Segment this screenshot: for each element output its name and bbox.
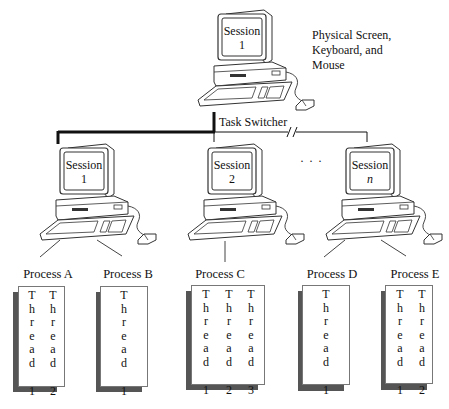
thread-letter: e [47,330,59,344]
process-c-title: Process C [188,267,252,282]
thread-letter: T [394,288,406,302]
thread-letter: e [320,329,332,343]
thread-letter: T [200,288,212,302]
thread-1: Thread 1 [320,288,332,397]
thread-letter: T [47,289,59,303]
thread-letter: h [26,303,38,317]
screen-number: 1 [62,172,106,186]
thread-number: 2 [47,385,59,399]
thread-letter: d [245,356,257,370]
process-e-title: Process E [383,267,447,282]
process-b: Thread 1 [96,286,148,392]
thread-letter: T [320,288,332,302]
thread-letter: a [200,342,212,356]
thread-letter: e [394,329,406,343]
process-card: Thread 1 Thread 2 Thread 3 [191,285,265,385]
thread-letter: h [118,303,130,317]
thread-letter: e [223,329,235,343]
thread-letter: a [26,343,38,357]
thread-letter: d [416,356,428,370]
thread-letter: T [26,289,38,303]
thread-letter: r [416,315,428,329]
physical-computer: Session 1 [196,8,316,108]
thread-letter: e [200,329,212,343]
thread-number: 3 [245,384,257,398]
thread-letter: r [26,316,38,330]
thread-letter: e [26,330,38,344]
thread-letter: d [223,356,235,370]
thread-1: Thread 1 [118,289,130,398]
thread-letter: d [200,356,212,370]
thread-number: 1 [320,384,332,398]
screen-text: Session [214,158,251,172]
session-2-computer: Session 2 [186,142,306,242]
thread-letter: e [118,330,130,344]
process-card: Thread 1 Thread 2 [18,286,65,387]
thread-letter: h [200,302,212,316]
thread-1: Thread 1 [394,288,406,397]
screen-number: 1 [220,38,264,52]
session-n-computer: Session n [324,142,444,242]
thread-letter: r [47,316,59,330]
thread-letter: h [245,302,257,316]
process-d-title: Process D [300,267,364,282]
process-card: Thread 1 [100,286,148,387]
task-switcher-label: Task Switcher [219,115,287,130]
thread-letter: a [223,342,235,356]
process-card: Thread 1 Thread 2 [385,285,433,384]
screen-text: Session [224,24,261,38]
thread-2: Thread 2 [416,288,428,397]
ellipsis: · · · [300,154,323,169]
process-a: Thread 1 Thread 2 [13,286,65,392]
thread-letter: r [200,315,212,329]
thread-letter: h [416,302,428,316]
thread-number: 2 [223,384,235,398]
thread-letter: h [47,303,59,317]
session-1-label: Session 1 [62,158,106,186]
thread-letter: d [118,357,130,371]
caption-line-3: Mouse [312,58,391,73]
thread-2: Thread 2 [47,289,59,398]
thread-letter: T [118,289,130,303]
thread-letter: a [245,342,257,356]
process-e: Thread 1 Thread 2 [381,285,437,391]
process-a-title: Process A [16,267,80,282]
screen-number: 2 [210,172,254,186]
thread-1: Thread 1 [200,288,212,397]
thread-letter: a [47,343,59,357]
process-card: Thread 1 [302,285,350,385]
process-b-title: Process B [96,267,160,282]
thread-letter: a [416,342,428,356]
thread-number: 1 [118,385,130,399]
thread-letter: r [394,315,406,329]
session-1-screen-label: Session 1 [220,24,264,52]
screen-text: Session [352,158,389,172]
thread-letter: h [223,302,235,316]
session-n-label: Session n [348,158,392,186]
thread-letter: r [223,315,235,329]
thread-letter: h [394,302,406,316]
session-1-computer: Session 1 [38,142,158,242]
thread-letter: e [416,329,428,343]
thread-letter: h [320,302,332,316]
thread-letter: T [416,288,428,302]
thread-letter: r [320,315,332,329]
thread-letter: d [320,356,332,370]
thread-number: 1 [200,384,212,398]
screen-number: n [348,172,392,186]
thread-number: 2 [416,384,428,398]
session-2-label: Session 2 [210,158,254,186]
screen-text: Session [66,158,103,172]
thread-letter: r [245,315,257,329]
thread-letter: a [394,342,406,356]
thread-letter: e [245,329,257,343]
physical-caption: Physical Screen, Keyboard, and Mouse [312,28,391,73]
process-d: Thread 1 [298,285,350,391]
thread-number: 1 [394,384,406,398]
caption-line-1: Physical Screen, [312,28,391,43]
caption-line-2: Keyboard, and [312,43,391,58]
thread-letter: T [223,288,235,302]
thread-letter: d [26,357,38,371]
thread-3: Thread 3 [245,288,257,397]
thread-letter: a [320,342,332,356]
